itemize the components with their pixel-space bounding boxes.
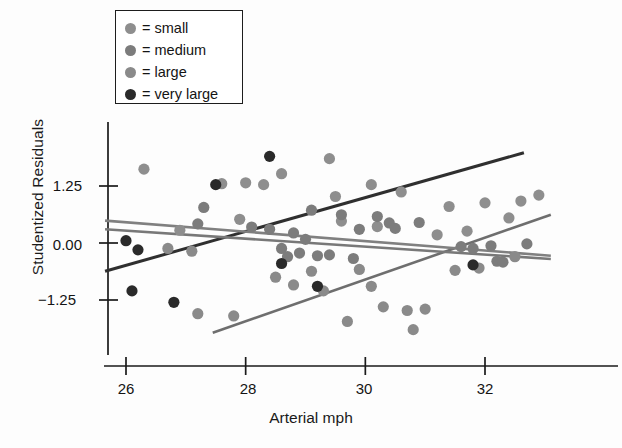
data-point-medium [336,209,347,220]
data-point-small [174,225,185,236]
x-tick-label-1: 26 [106,380,146,397]
data-point-large [378,301,389,312]
data-point-small [240,177,251,188]
data-point-small [396,186,407,197]
data-point-medium [414,217,425,228]
data-point-very-large [120,235,131,246]
data-point-very-large [210,179,221,190]
data-point-medium [485,240,496,251]
data-point-very-large [168,297,179,308]
data-point-large [270,272,281,283]
data-point-medium [390,223,401,234]
legend-marker-large-icon [125,67,136,78]
data-point-medium [288,227,299,238]
legend-label-large: = large [142,65,187,80]
data-point-small [479,197,490,208]
data-point-medium [198,202,209,213]
data-point-large [306,266,317,277]
x-tick-label-3: 30 [344,380,384,397]
legend: = small = medium = large = very large [115,10,243,104]
data-point-small [330,191,341,202]
data-point-medium [521,238,532,249]
data-point-medium [264,224,275,235]
data-point-small [258,179,269,190]
x-tick-label-4: 32 [465,380,505,397]
axis-lines [99,122,618,375]
data-point-medium [192,218,203,229]
legend-item-large: = large [125,61,187,83]
data-point-small [372,221,383,232]
y-tick-label-1: 1.25 [20,177,82,194]
scatter-plot-figure: Studentized Residuals Arterial mph 1.25 … [0,0,622,448]
data-point-small [432,229,443,240]
data-points [120,151,544,335]
data-point-medium [467,243,478,254]
data-point-very-large [264,151,275,162]
data-point-medium [372,211,383,222]
data-point-medium [455,241,466,252]
y-tick-label-3: −1.25 [14,291,76,308]
y-tick-label-2: 0.00 [20,236,82,253]
data-point-medium [348,253,359,264]
data-point-large [420,304,431,315]
data-point-small [444,201,455,212]
data-point-medium [300,234,311,245]
legend-marker-small-icon [125,23,136,34]
data-point-medium [246,221,257,232]
data-point-small [324,153,335,164]
data-point-large [449,265,460,276]
data-point-very-large [276,258,287,269]
data-point-medium [497,257,508,268]
legend-item-small: = small [125,17,188,39]
legend-label-small: = small [142,21,188,36]
x-axis-title: Arterial mph [0,409,622,427]
data-point-large [354,264,365,275]
data-point-medium [294,247,305,258]
data-point-large [408,324,419,335]
data-point-large [366,281,377,292]
data-point-very-large [467,259,478,270]
legend-marker-medium-icon [125,45,136,56]
y-axis-title: Studentized Residuals [29,97,47,297]
legend-label-medium: = medium [142,43,206,58]
data-point-small [138,164,149,175]
data-point-large [288,279,299,290]
data-point-very-large [126,285,137,296]
x-tick-label-2: 28 [228,380,268,397]
legend-item-medium: = medium [125,39,206,61]
data-point-medium [354,224,365,235]
data-point-large [186,246,197,257]
data-point-large [162,243,173,254]
data-point-small [234,214,245,225]
data-point-medium [312,250,323,261]
data-point-small [461,226,472,237]
legend-label-very-large: = very large [142,87,218,102]
data-point-large [509,251,520,262]
data-point-large [342,316,353,327]
data-point-very-large [132,244,143,255]
data-point-very-large [312,281,323,292]
data-point-large [228,310,239,321]
plot-canvas [0,0,622,448]
legend-marker-very-large-icon [125,89,136,100]
data-point-small [366,179,377,190]
data-point-large [192,308,203,319]
data-point-small [515,195,526,206]
data-point-large [402,305,413,316]
data-point-small [276,168,287,179]
data-point-medium [306,205,317,216]
data-point-medium [324,249,335,260]
data-point-small [533,190,544,201]
data-point-small [503,212,514,223]
legend-item-very-large: = very large [125,83,218,105]
